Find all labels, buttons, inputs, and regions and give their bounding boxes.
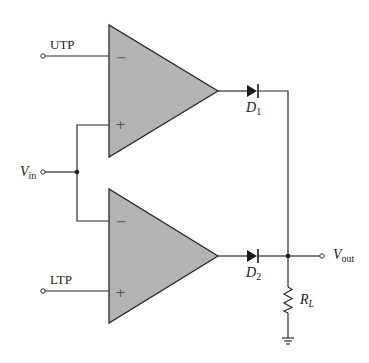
opamp-top-body (109, 25, 218, 157)
d2-label: D2 (245, 265, 261, 282)
d1-to-output-wire (258, 91, 288, 256)
opamp-bottom: − + (109, 189, 218, 323)
diode-d1-icon (247, 85, 257, 97)
diode-d2-icon (247, 250, 257, 262)
utp-terminal (41, 54, 45, 58)
vin-split-wire (77, 125, 109, 221)
opamp-bottom-inverting-symbol: − (116, 214, 127, 229)
utp-input: UTP (41, 37, 109, 58)
opamp-bottom-noninverting-symbol: + (115, 285, 126, 300)
vout-label: Vout (333, 247, 355, 264)
ltp-input: LTP (41, 272, 109, 293)
d1-branch: D1 (218, 84, 288, 256)
vout-terminal (320, 254, 324, 258)
d1-label: D1 (245, 100, 261, 117)
opamp-top-inverting-symbol: − (116, 50, 127, 65)
rl-label: RL (299, 292, 315, 309)
d2-branch: D2 (218, 249, 288, 282)
opamp-top-noninverting-symbol: + (115, 117, 126, 132)
load-resistor-branch: RL (282, 256, 315, 344)
opamp-top: − + (109, 25, 218, 157)
vin-input: Vin (20, 125, 109, 221)
ltp-label: LTP (50, 272, 72, 287)
output-node: Vout (286, 247, 355, 264)
vin-label: Vin (20, 164, 36, 181)
opamp-bottom-body (109, 189, 218, 323)
ltp-terminal (41, 289, 45, 293)
circuit-diagram: − + − + UTP Vin LTP D1 (0, 0, 369, 363)
vin-terminal (41, 170, 45, 174)
resistor-rl-icon (284, 287, 292, 313)
ground-icon (282, 338, 294, 344)
utp-label: UTP (50, 37, 75, 52)
